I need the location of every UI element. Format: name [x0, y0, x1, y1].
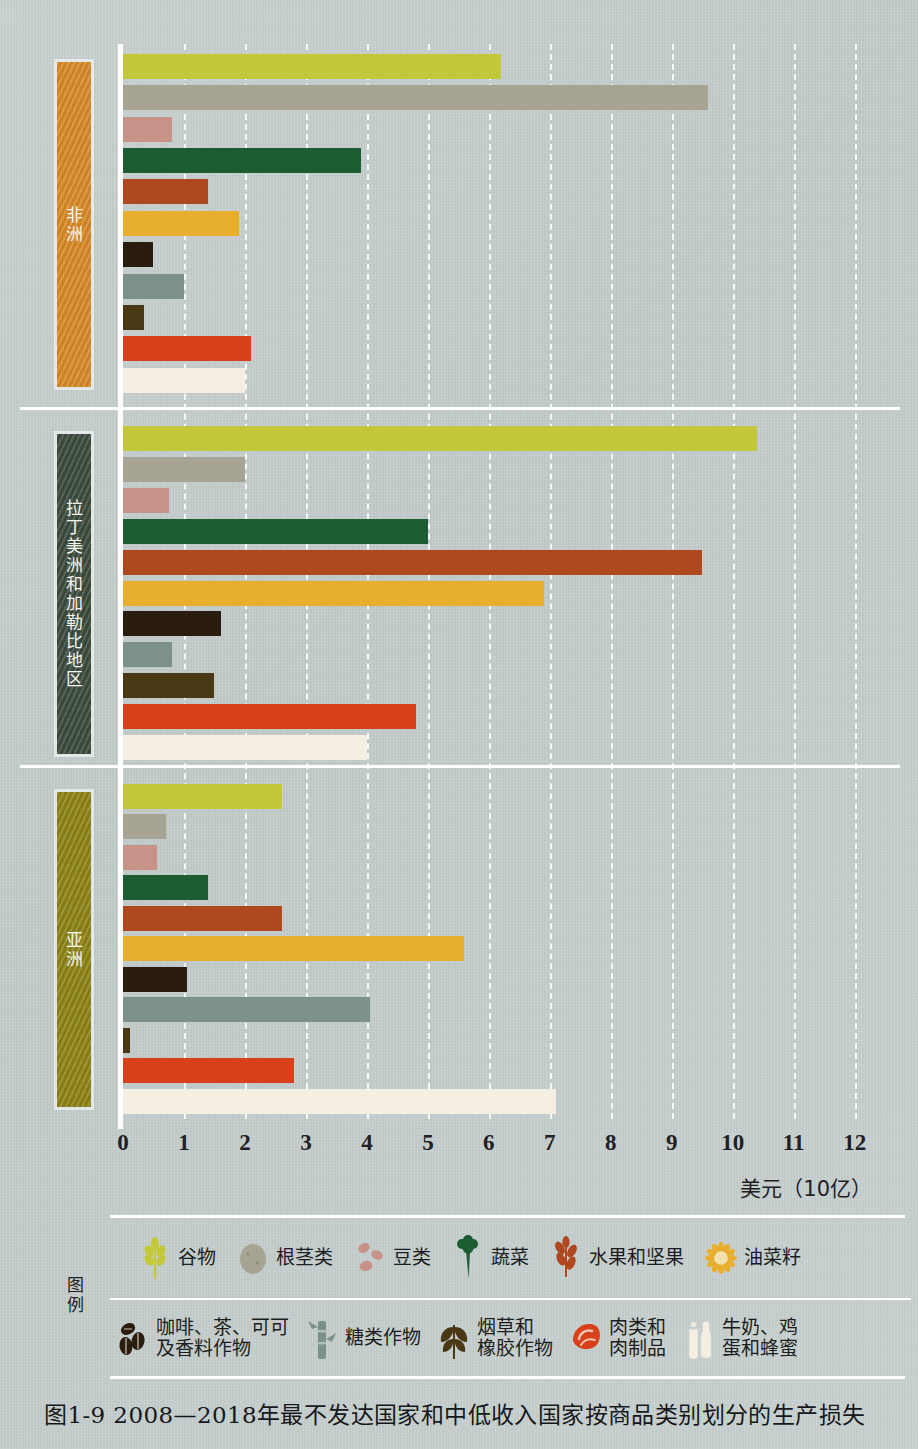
legend-item-fruits[interactable]: 水果和坚果 — [549, 1235, 684, 1281]
legend-item-meat[interactable]: 肉类和 肉制品 — [569, 1315, 666, 1361]
bar-row-asia-oilseeds — [123, 936, 873, 961]
bar-africa-milk — [123, 368, 245, 393]
bar-row-asia-sugar — [123, 997, 873, 1022]
legend-item-vegetables[interactable]: 蔬菜 — [451, 1235, 529, 1281]
x-tick-5: 5 — [422, 1130, 434, 1156]
region-label-lac: 拉丁美洲和加勒比地区 — [57, 434, 91, 754]
bar-africa-meat — [123, 336, 251, 361]
bar-africa-tobacco — [123, 305, 144, 330]
bar-africa-sugar — [123, 274, 184, 299]
bar-row-lac-vegetables — [123, 519, 873, 544]
legend-label-vegetables: 蔬菜 — [491, 1247, 529, 1268]
bar-africa-oilseeds — [123, 211, 239, 236]
region-separator-2 — [20, 765, 900, 768]
bar-africa-vegetables — [123, 148, 361, 173]
legend-label-meat: 肉类和 肉制品 — [609, 1317, 666, 1360]
legend-label-pulses: 豆类 — [393, 1247, 431, 1268]
x-tick-6: 6 — [483, 1130, 495, 1156]
legend-label-fruits: 水果和坚果 — [589, 1247, 684, 1268]
legend-item-pulses[interactable]: 豆类 — [353, 1235, 431, 1281]
bar-row-asia-cereals — [123, 784, 873, 809]
bar-row-asia-fruits — [123, 906, 873, 931]
oilseeds-icon — [704, 1235, 738, 1281]
bar-lac-cereals — [123, 426, 757, 451]
legend-label-cereals: 谷物 — [178, 1247, 216, 1268]
legend-item-tobacco[interactable]: 烟草和 橡胶作物 — [437, 1315, 553, 1361]
legend-label-sugar: 糖类作物 — [345, 1327, 421, 1348]
legend-item-roots[interactable]: 根茎类 — [236, 1235, 333, 1281]
legend-item-cereals[interactable]: 谷物 — [138, 1235, 216, 1281]
bar-row-asia-roots — [123, 814, 873, 839]
legend-item-coffee[interactable]: 咖啡、茶、可可 及香料作物 — [116, 1315, 289, 1361]
bar-africa-coffee — [123, 242, 153, 267]
bar-africa-cereals — [123, 54, 501, 79]
legend-item-milk[interactable]: 牛奶、鸡 蛋和蜂蜜 — [682, 1315, 798, 1361]
bar-africa-pulses — [123, 117, 172, 142]
bar-lac-coffee — [123, 611, 221, 636]
bar-row-lac-cereals — [123, 426, 873, 451]
legend-label-tobacco: 烟草和 橡胶作物 — [477, 1317, 553, 1360]
bar-asia-milk — [123, 1089, 556, 1114]
bar-lac-pulses — [123, 488, 169, 513]
x-tick-11: 11 — [783, 1130, 805, 1156]
legend-item-oilseeds[interactable]: 油菜籽 — [704, 1235, 801, 1281]
legend-label-oilseeds: 油菜籽 — [744, 1247, 801, 1268]
bar-row-lac-coffee — [123, 611, 873, 636]
plot-area: 非洲拉丁美洲和加勒比地区亚洲 — [123, 44, 873, 1119]
tobacco-icon — [437, 1315, 471, 1361]
bar-row-asia-meat — [123, 1058, 873, 1083]
bar-row-africa-coffee — [123, 242, 873, 267]
bar-row-asia-tobacco — [123, 1028, 873, 1053]
bar-row-lac-oilseeds — [123, 581, 873, 606]
bar-asia-roots — [123, 814, 166, 839]
bar-row-africa-pulses — [123, 117, 873, 142]
bar-row-lac-tobacco — [123, 673, 873, 698]
pulses-icon — [353, 1235, 387, 1281]
region-label-text-africa: 非洲 — [62, 206, 87, 244]
bar-row-africa-meat — [123, 336, 873, 361]
legend-label-roots: 根茎类 — [276, 1247, 333, 1268]
legend-box: 谷物 根茎类 豆类 蔬菜 水果和坚果 油菜籽 咖啡、茶、可可 及香料作物 — [110, 1215, 905, 1379]
bar-row-africa-fruits — [123, 179, 873, 204]
legend-title-text: 图例 — [63, 1276, 88, 1316]
bar-row-asia-pulses — [123, 845, 873, 870]
bar-africa-roots — [123, 85, 708, 110]
bar-row-lac-fruits — [123, 550, 873, 575]
bar-row-lac-pulses — [123, 488, 873, 513]
coffee-icon — [116, 1315, 150, 1361]
x-tick-0: 0 — [117, 1130, 129, 1156]
bar-africa-fruits — [123, 179, 208, 204]
bar-asia-pulses — [123, 845, 157, 870]
region-label-text-lac: 拉丁美洲和加勒比地区 — [62, 499, 87, 689]
x-tick-9: 9 — [666, 1130, 678, 1156]
region-label-asia: 亚洲 — [57, 792, 91, 1107]
bar-row-lac-milk — [123, 735, 873, 760]
bar-asia-oilseeds — [123, 936, 464, 961]
bar-row-africa-cereals — [123, 54, 873, 79]
bar-row-asia-milk — [123, 1089, 873, 1114]
bar-row-lac-meat — [123, 704, 873, 729]
bar-row-africa-sugar — [123, 274, 873, 299]
roots-icon — [236, 1235, 270, 1281]
x-tick-1: 1 — [178, 1130, 190, 1156]
vegetables-icon — [451, 1235, 485, 1281]
bar-asia-meat — [123, 1058, 294, 1083]
bar-lac-oilseeds — [123, 581, 544, 606]
bar-row-lac-roots — [123, 457, 873, 482]
bar-row-lac-sugar — [123, 642, 873, 667]
region-separator-1 — [20, 407, 900, 410]
legend-label-coffee: 咖啡、茶、可可 及香料作物 — [156, 1317, 289, 1360]
legend-item-sugar[interactable]: 糖类作物 — [305, 1315, 421, 1361]
cereals-icon — [138, 1235, 172, 1281]
bar-lac-fruits — [123, 550, 702, 575]
bar-asia-sugar — [123, 997, 370, 1022]
legend: 图例 谷物 根茎类 豆类 蔬菜 水果和坚果 油菜籽 — [62, 1215, 907, 1375]
x-tick-10: 10 — [721, 1130, 744, 1156]
bar-row-africa-vegetables — [123, 148, 873, 173]
bar-row-africa-oilseeds — [123, 211, 873, 236]
legend-title: 图例 — [62, 1233, 88, 1359]
bar-asia-coffee — [123, 967, 187, 992]
bar-lac-roots — [123, 457, 245, 482]
bar-asia-fruits — [123, 906, 282, 931]
meat-icon — [569, 1315, 603, 1361]
